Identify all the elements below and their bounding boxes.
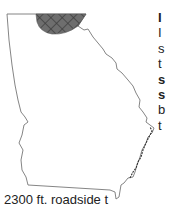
bottom-description-text: 2300 ft. roadside t: [4, 192, 108, 208]
side-description-text: I I s t s s b t: [158, 10, 169, 133]
state-outline: [7, 14, 154, 199]
side-line: s: [158, 41, 169, 56]
side-line: b: [158, 102, 169, 117]
side-line: I: [158, 10, 169, 25]
georgia-map: [0, 0, 160, 200]
side-line: t: [158, 56, 169, 71]
side-line: s: [158, 72, 169, 87]
side-line: s: [158, 87, 169, 102]
side-line: t: [158, 118, 169, 133]
side-line: I: [158, 25, 169, 40]
